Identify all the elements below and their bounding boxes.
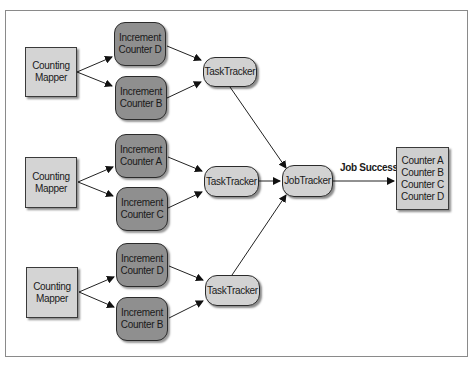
increment-label: Counter B: [120, 98, 162, 110]
tasktracker-label: TaskTracker: [205, 66, 256, 78]
increment-label: Increment: [120, 86, 162, 98]
increment-label: Increment: [121, 197, 163, 209]
tasktracker-2: TaskTracker: [204, 166, 259, 197]
arrow-incrB-tt1: [167, 82, 201, 98]
arrow-tt1-jt: [230, 87, 286, 168]
tasktracker-1: TaskTracker: [203, 57, 257, 87]
increment-label: Increment: [119, 32, 161, 44]
mapper-label: Counting: [32, 171, 70, 183]
mapper-label: Mapper: [36, 293, 68, 305]
counting-mapper-3: Counting Mapper: [26, 267, 78, 318]
counter-item: Counter C: [401, 179, 444, 191]
tasktracker-label: TaskTracker: [206, 176, 257, 188]
counting-mapper-2: Counting Mapper: [25, 157, 77, 208]
arrow-mapper3-incrD: [79, 277, 114, 292]
arrow-mapper2-incrA: [78, 167, 113, 182]
arrow-incrB-tt3: [169, 301, 203, 318]
increment-label: Counter B: [121, 319, 163, 331]
arrow-incrA-tt2: [168, 157, 202, 171]
increment-label: Counter C: [121, 209, 164, 221]
counter-item: Counter D: [401, 191, 444, 203]
increment-counter-b-1: Increment Counter B: [115, 76, 167, 120]
increment-label: Counter D: [121, 265, 164, 277]
increment-counter-a: Increment Counter A: [115, 134, 167, 178]
increment-label: Increment: [120, 144, 162, 156]
arrow-mapper3-incrB: [79, 292, 114, 307]
counter-item: Counter B: [401, 167, 443, 179]
increment-counter-d-1: Increment Counter D: [114, 22, 166, 66]
counting-mapper-1: Counting Mapper: [25, 47, 77, 97]
arrow-incrD-tt1: [167, 46, 201, 60]
increment-label: Counter D: [119, 44, 162, 56]
job-success-label: Job Success: [340, 162, 398, 173]
tasktracker-label: TaskTracker: [207, 285, 258, 297]
increment-label: Counter A: [120, 156, 162, 168]
mapper-label: Counting: [33, 281, 71, 293]
increment-label: Increment: [121, 253, 163, 265]
counter-item: Counter A: [402, 155, 444, 167]
mapper-label: Counting: [32, 60, 70, 72]
increment-counter-d-2: Increment Counter D: [116, 243, 168, 287]
arrow-incrC-tt2: [168, 192, 202, 208]
increment-counter-c: Increment Counter C: [116, 187, 168, 231]
increment-counter-b-2: Increment Counter B: [116, 297, 168, 341]
arrow-mapper2-incrC: [78, 182, 113, 196]
mapper-label: Mapper: [35, 183, 67, 195]
arrow-tt3-jt: [232, 195, 286, 275]
mapper-label: Mapper: [35, 72, 67, 84]
arrow-mapper1-incrD: [77, 57, 112, 72]
tasktracker-3: TaskTracker: [205, 275, 260, 306]
arrow-incrD-tt3: [169, 266, 203, 280]
jobtracker: JobTracker: [282, 165, 333, 197]
counters-box: Counter A Counter B Counter C Counter D: [396, 147, 449, 210]
arrow-mapper1-incrB: [77, 72, 112, 86]
increment-label: Increment: [121, 307, 163, 319]
jobtracker-label: JobTracker: [284, 175, 331, 187]
